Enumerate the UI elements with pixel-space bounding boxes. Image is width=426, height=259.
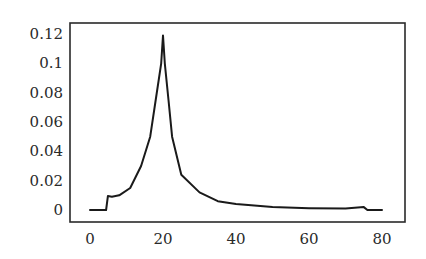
y-tick-label: 0.04 [30, 142, 63, 160]
y-tick-label: 0.08 [30, 84, 63, 102]
x-tick-label: 0 [85, 230, 95, 248]
x-tick-label: 20 [153, 230, 172, 248]
y-axis-tick-labels: 00.020.040.060.080.10.12 [30, 25, 63, 219]
data-series-line [90, 36, 382, 211]
x-axis-tick-labels: 020406080 [85, 230, 391, 248]
x-tick-label: 40 [226, 230, 245, 248]
x-tick-label: 60 [299, 230, 318, 248]
x-tick-label: 80 [372, 230, 391, 248]
y-tick-label: 0 [53, 201, 63, 219]
y-tick-label: 0.12 [30, 25, 63, 43]
line-chart: 00.020.040.060.080.10.12 020406080 [0, 0, 426, 259]
plot-frame [70, 23, 405, 222]
y-tick-label: 0.06 [30, 113, 63, 131]
y-tick-label: 0.1 [39, 54, 63, 72]
y-tick-label: 0.02 [30, 172, 63, 190]
